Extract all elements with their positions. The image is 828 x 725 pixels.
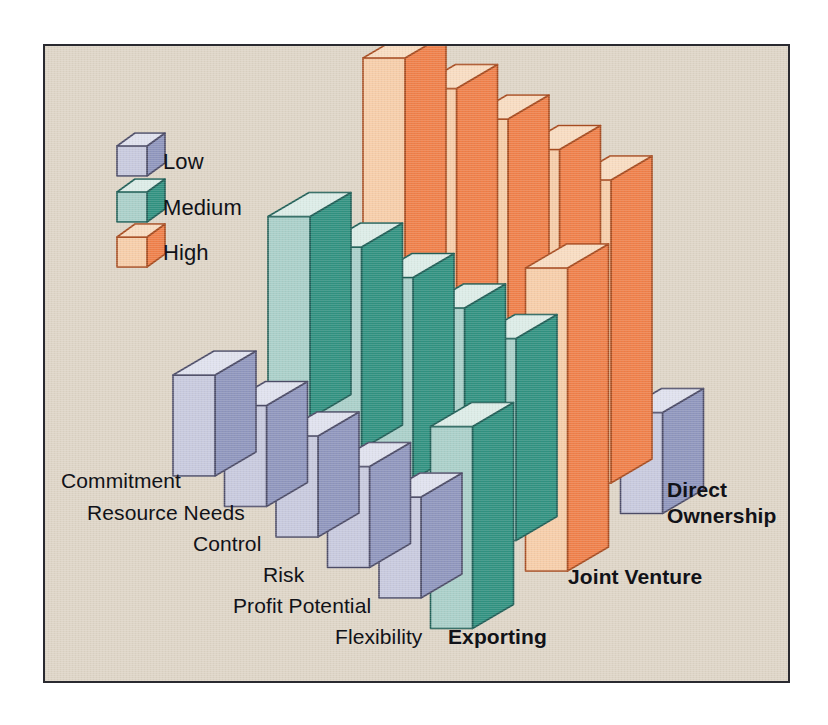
mode-label-exporting: Exporting xyxy=(448,625,547,649)
bar-exporting-commitment xyxy=(173,351,256,476)
legend-cubes-layer xyxy=(117,133,165,267)
category-label-profit-potential: Profit Potential xyxy=(233,594,371,618)
legend-item-low[interactable]: Low xyxy=(163,149,204,175)
legend-cube-high-icon xyxy=(117,224,165,267)
chart-frame: Low Medium High Commitment Resource Need… xyxy=(43,44,790,683)
mode-label-direct-ownership: DirectOwnership xyxy=(667,477,776,528)
category-label-resource-needs: Resource Needs xyxy=(87,501,245,525)
mode-label-joint-venture: Joint Venture xyxy=(568,565,702,589)
category-label-commitment: Commitment xyxy=(61,469,181,493)
screenshot-stage: Low Medium High Commitment Resource Need… xyxy=(0,0,828,725)
category-label-flexibility: Flexibility xyxy=(335,625,422,649)
category-label-risk: Risk xyxy=(263,563,304,587)
legend-item-medium[interactable]: Medium xyxy=(163,195,242,221)
legend-cube-medium-icon xyxy=(117,179,165,222)
mode-label-direct-ownership-text: DirectOwnership xyxy=(667,478,776,527)
legend-label-medium: Medium xyxy=(163,195,242,221)
legend-label-low: Low xyxy=(163,149,204,175)
category-label-control: Control xyxy=(193,532,261,556)
legend-label-high: High xyxy=(163,240,209,266)
legend-cube-low-icon xyxy=(117,133,165,176)
legend-item-high[interactable]: High xyxy=(163,240,209,266)
